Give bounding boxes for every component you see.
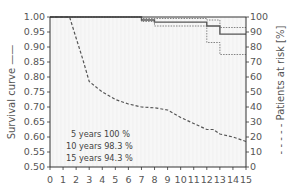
x-tick-label: 4 — [99, 174, 105, 185]
annotation-5-years: 5 years 100 % — [71, 129, 130, 139]
x-tick-label: 8 — [152, 174, 158, 185]
y2-tick-label: 10 — [250, 146, 262, 157]
x-tick-label: 0 — [47, 174, 53, 185]
y2-tick-label: 60 — [250, 71, 262, 82]
y-tick-label: 0.60 — [24, 131, 45, 142]
y2-tick-label: 90 — [250, 26, 262, 37]
right-axis-title: - - - - - Patients at risk [%] — [275, 26, 286, 155]
y2-tick-label: 100 — [250, 11, 268, 22]
y-tick-label: 0.55 — [24, 146, 45, 157]
annotation-10-years: 10 years 98.3 % — [66, 141, 133, 151]
y-tick-label: 0.65 — [24, 116, 45, 127]
y2-tick-label: 20 — [250, 131, 262, 142]
y-tick-label: 0.85 — [24, 56, 45, 67]
y2-tick-label: 70 — [250, 56, 262, 67]
y2-tick-label: 0 — [250, 161, 256, 172]
annotation-15-years: 15 years 94.3 % — [66, 153, 133, 163]
left-axis-ticks: 0.500.550.600.650.700.750.800.850.900.95… — [24, 11, 50, 172]
x-axis-ticks: 0123456789101112131415 — [47, 167, 252, 185]
x-tick-label: 6 — [125, 174, 131, 185]
y-tick-label: 0.95 — [24, 26, 45, 37]
x-tick-label: 13 — [214, 174, 226, 185]
y-tick-label: 0.90 — [24, 41, 45, 52]
survival-chart: 0.500.550.600.650.700.750.800.850.900.95… — [0, 0, 290, 194]
x-tick-label: 10 — [175, 174, 187, 185]
y-tick-label: 1.00 — [24, 11, 45, 22]
y2-tick-label: 30 — [250, 116, 262, 127]
x-tick-label: 14 — [227, 174, 239, 185]
y-tick-label: 0.80 — [24, 71, 45, 82]
y2-tick-label: 50 — [250, 86, 262, 97]
x-tick-label: 9 — [165, 174, 171, 185]
survival-annotation: 5 years 100 % 10 years 98.3 % 15 years 9… — [66, 129, 133, 163]
x-tick-label: 3 — [86, 174, 92, 185]
x-tick-label: 5 — [112, 174, 118, 185]
x-tick-label: 7 — [138, 174, 144, 185]
x-tick-label: 15 — [240, 174, 252, 185]
y-tick-label: 0.75 — [24, 86, 45, 97]
y-tick-label: 0.50 — [24, 161, 45, 172]
left-axis-title: Survival curve —— — [6, 45, 17, 140]
x-tick-label: 1 — [60, 174, 66, 185]
x-tick-label: 11 — [188, 174, 200, 185]
y2-tick-label: 40 — [250, 101, 262, 112]
right-axis-ticks: 0102030405060708090100 — [246, 11, 268, 172]
y-tick-label: 0.70 — [24, 101, 45, 112]
y2-tick-label: 80 — [250, 41, 262, 52]
x-tick-label: 2 — [73, 174, 79, 185]
x-tick-label: 12 — [201, 174, 213, 185]
